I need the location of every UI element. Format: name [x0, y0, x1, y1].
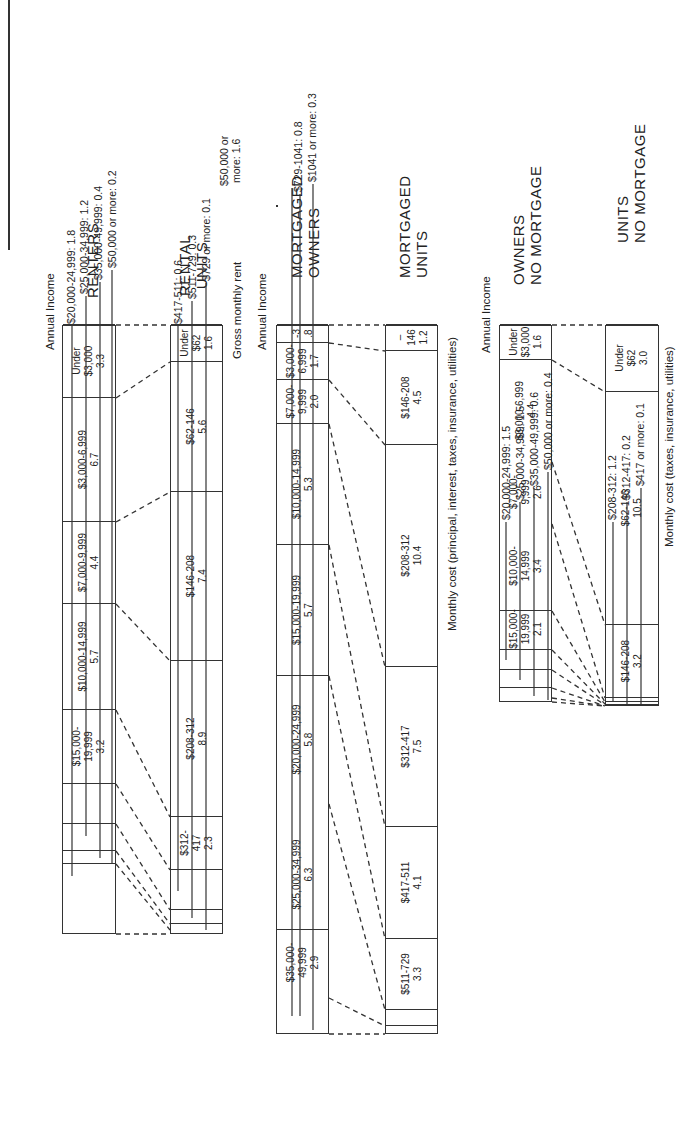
dashed-connectors	[0, 0, 698, 1136]
housing-cost-diagram: RENTERS Annual Income Under $3,000 3.3 $…	[0, 0, 698, 1136]
